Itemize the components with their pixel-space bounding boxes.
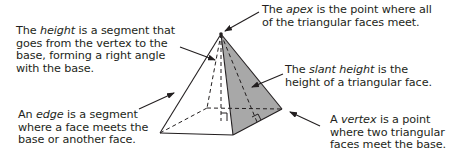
apex-label-text: The <box>262 3 286 16</box>
vertex-label: A vertex is a point where two triangular… <box>330 114 446 152</box>
height-term: height <box>40 24 75 37</box>
slant-height-label: The slant height is the height of a tria… <box>285 64 432 89</box>
vertex-label-text: A <box>330 113 341 126</box>
vertex-label-line: faces meet the base. <box>330 139 446 152</box>
slant-height-label-line: height of a triangular face. <box>285 77 432 90</box>
edge-label-line: base or another face. <box>18 134 148 147</box>
vertex-term: vertex <box>341 113 376 126</box>
apex-label: The apex is the point where all of the t… <box>262 4 432 29</box>
edge-arrow <box>139 93 174 109</box>
edge-label-text: An <box>18 108 36 121</box>
slant-height-term: slant height <box>309 63 374 76</box>
slant-height-label-text: is the <box>374 63 408 76</box>
edge-term: edge <box>36 108 64 121</box>
height-label-text: The <box>16 24 40 37</box>
edge-label-text: is a segment <box>64 108 138 121</box>
height-label-line: base, forming a right angle <box>16 50 175 63</box>
apex-label-line: of the triangular faces meet. <box>262 17 432 30</box>
apex-term: apex <box>286 3 313 16</box>
slant-height-label-text: The <box>285 63 309 76</box>
height-label: The height is a segment that goes from t… <box>16 25 175 75</box>
height-label-line: with the base. <box>16 63 175 76</box>
apex-arrow <box>225 12 259 31</box>
vertex-label-text: is a point <box>376 113 430 126</box>
edge-label: An edge is a segment where a face meets … <box>18 109 148 147</box>
height-label-text: is a segment that <box>75 24 175 37</box>
apex-label-text: is the point where all <box>313 3 432 16</box>
apex-point <box>219 32 223 36</box>
vertex-arrow <box>290 112 320 126</box>
